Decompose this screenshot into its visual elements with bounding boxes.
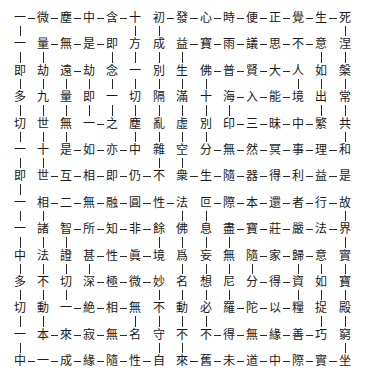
seal-character: 界 xyxy=(337,221,353,237)
seal-character: 入 xyxy=(244,89,260,105)
seal-character: 得 xyxy=(221,327,237,343)
seal-character: 名 xyxy=(127,327,143,343)
seal-character: 生 xyxy=(313,10,329,26)
seal-character: 成 xyxy=(151,36,167,52)
seal-character: 便 xyxy=(244,10,260,26)
seal-character: 守 xyxy=(151,327,167,343)
seal-character: 還 xyxy=(267,195,283,211)
seal-character: 理 xyxy=(313,142,329,158)
seal-character: 巧 xyxy=(313,327,329,343)
seal-character: 雜 xyxy=(151,142,167,158)
seal-character: 不 xyxy=(290,36,306,52)
seal-character: 極 xyxy=(104,274,120,290)
seal-character: 不 xyxy=(35,274,51,290)
seal-character: 發 xyxy=(174,10,190,26)
seal-character: 以 xyxy=(267,300,283,316)
seal-character: 捉 xyxy=(313,300,329,316)
seal-character: 法 xyxy=(174,195,190,211)
seal-character: 涅 xyxy=(337,36,353,52)
seal-character: 十 xyxy=(198,89,214,105)
seal-character: 賢 xyxy=(244,63,260,79)
seal-character: 念 xyxy=(104,63,120,79)
seal-character: 亦 xyxy=(104,142,120,158)
seal-character: 盡 xyxy=(221,221,237,237)
seal-character: 隨 xyxy=(221,168,237,184)
seal-character: 證 xyxy=(58,248,74,264)
seal-character: 衆 xyxy=(174,168,190,184)
seal-character: 中 xyxy=(12,248,28,264)
seal-character: 如 xyxy=(313,274,329,290)
seal-character: 殿 xyxy=(337,300,353,316)
seal-character: 一 xyxy=(81,116,97,132)
seal-character: 動 xyxy=(174,300,190,316)
seal-character: 分 xyxy=(244,274,260,290)
seal-character: 性 xyxy=(127,353,143,369)
seal-character: 一 xyxy=(58,300,74,316)
seal-character: 本 xyxy=(35,327,51,343)
seal-character: 相 xyxy=(81,168,97,184)
seal-character: 舊 xyxy=(198,353,214,369)
seal-character: 一 xyxy=(12,327,28,343)
seal-character: 無 xyxy=(127,300,143,316)
seal-character: 昧 xyxy=(267,116,283,132)
seal-character: 不 xyxy=(151,168,167,184)
seal-character: 繁 xyxy=(313,116,329,132)
seal-character: 議 xyxy=(244,36,260,52)
seal-character: 人 xyxy=(290,63,306,79)
seal-character: 滿 xyxy=(174,89,190,105)
seal-character: 一 xyxy=(12,36,28,52)
seal-character: 仍 xyxy=(127,168,143,184)
seal-character: 想 xyxy=(198,274,214,290)
seal-character: 莊 xyxy=(267,221,283,237)
seal-character: 三 xyxy=(244,116,260,132)
seal-character: 隨 xyxy=(104,353,120,369)
seal-character: 成 xyxy=(58,353,74,369)
seal-character: 未 xyxy=(221,353,237,369)
seal-character: 窮 xyxy=(337,327,353,343)
seal-character: 益 xyxy=(174,36,190,52)
seal-character: 含 xyxy=(104,10,120,26)
seal-character: 別 xyxy=(151,63,167,79)
seal-character: 際 xyxy=(290,353,306,369)
seal-character: 二 xyxy=(58,195,74,211)
seal-character: 死 xyxy=(337,10,353,26)
seal-character: 意 xyxy=(313,248,329,264)
seal-character: 得 xyxy=(267,168,283,184)
seal-character: 之 xyxy=(104,116,120,132)
seal-character: 實 xyxy=(313,353,329,369)
seal-character: 所 xyxy=(81,221,97,237)
seal-character: 即 xyxy=(12,168,28,184)
seal-character: 爲 xyxy=(174,248,190,264)
seal-character: 冥 xyxy=(267,142,283,158)
seal-character: 互 xyxy=(58,168,74,184)
seal-character: 坐 xyxy=(337,353,353,369)
seal-character: 妄 xyxy=(198,248,214,264)
seal-character: 一 xyxy=(127,63,143,79)
seal-character: 是 xyxy=(337,168,353,184)
seal-character: 一 xyxy=(12,195,28,211)
seal-character: 善 xyxy=(290,327,306,343)
seal-character: 相 xyxy=(104,300,120,316)
seal-character: 寂 xyxy=(81,327,97,343)
seal-character: 世 xyxy=(35,116,51,132)
seal-character: 融 xyxy=(104,195,120,211)
seal-character: 中 xyxy=(12,353,28,369)
seal-character: 切 xyxy=(12,300,28,316)
seal-character: 是 xyxy=(58,142,74,158)
seal-character: 大 xyxy=(267,63,283,79)
seal-character: 絶 xyxy=(81,300,97,316)
seal-character: 行 xyxy=(313,195,329,211)
seal-character: 故 xyxy=(337,195,353,211)
seal-character: 九 xyxy=(35,89,51,105)
seal-character: 利 xyxy=(290,168,306,184)
seal-character: 知 xyxy=(104,221,120,237)
seal-character: 覺 xyxy=(290,10,306,26)
seal-character: 寶 xyxy=(244,221,260,237)
seal-character: 虛 xyxy=(174,116,190,132)
seal-character: 不 xyxy=(198,327,214,343)
seal-character: 能 xyxy=(267,89,283,105)
seal-character: 緣 xyxy=(81,353,97,369)
seal-character: 羅 xyxy=(221,300,237,316)
seal-character: 妙 xyxy=(151,274,167,290)
seal-character: 動 xyxy=(35,300,51,316)
